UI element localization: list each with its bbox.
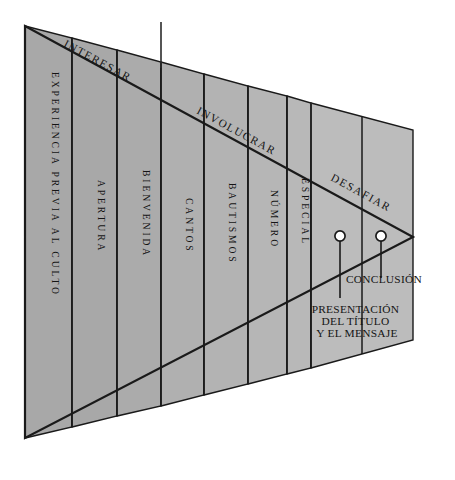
band-label-bienvenida: BIENVENIDA [141,170,152,258]
funnel-diagram: INTERESAR INVOLUCRAR DESAFIAR EXPERIENCI… [0,0,455,480]
band-shape-0 [25,26,72,438]
callout-label-conclusion: CONCLUSIÓN [346,273,422,285]
callout-presentacion-line-2: Y EL MENSAJE [316,327,397,339]
callout-label-presentacion: PRESENTACIÓN DEL TÍTULO Y EL MENSAJE [312,303,403,339]
band-shape-2 [117,50,161,416]
funnel-bands [25,26,413,438]
callout-conclusion-line-0: CONCLUSIÓN [346,273,422,285]
band-label-numero: NÚMERO [269,190,280,249]
callout-pin-head-conclusion [376,231,386,241]
callout-presentacion-line-0: PRESENTACIÓN [312,303,400,315]
band-shape-1 [72,38,117,427]
band-label-bautismos: BAUTISMOS [227,183,238,265]
band-label-experiencia-previa-al-culto: EXPERIENCIA PREVIA AL CULTO [50,72,61,297]
callout-presentacion-line-1: DEL TÍTULO [321,315,389,327]
band-label-apertura: APERTURA [96,180,107,253]
callout-pin-head-presentacion [335,231,345,241]
band-label-cantos: CANTOS [184,198,195,254]
funnel-diagram-canvas: INTERESAR INVOLUCRAR DESAFIAR EXPERIENCI… [0,0,455,480]
band-label-especial: ESPECIAL [300,178,311,246]
band-shape-5 [248,86,287,384]
